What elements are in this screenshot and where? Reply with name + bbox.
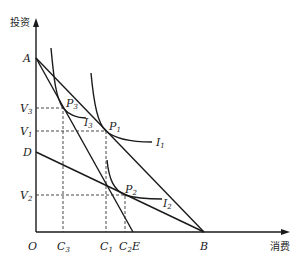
tick-C2: C2 xyxy=(119,240,132,254)
tick-C1: C1 xyxy=(100,240,113,254)
origin-label: O xyxy=(28,240,37,253)
guide-P2 xyxy=(36,195,125,232)
budget-line-AE xyxy=(36,58,133,232)
point-P1-label: P1 xyxy=(108,120,121,134)
tick-C3: C3 xyxy=(57,240,70,254)
tick-V3: V3 xyxy=(20,102,33,116)
x-axis-label: 消费 xyxy=(270,240,290,252)
point-B-label: B xyxy=(199,240,208,253)
tick-V1: V1 xyxy=(20,125,32,139)
y-axis-arrow-icon xyxy=(33,18,39,27)
y-axis-label: 投资 xyxy=(10,16,30,28)
point-E-label: E xyxy=(131,240,140,253)
budget-line-AB xyxy=(36,58,204,232)
point-A-label: A xyxy=(22,52,31,65)
x-axis-arrow-icon xyxy=(281,229,290,235)
guide-P3 xyxy=(36,108,63,232)
curve-I3-label: I3 xyxy=(83,116,93,130)
point-P2-label: P2 xyxy=(124,183,137,197)
tick-V2: V2 xyxy=(20,189,33,203)
indifference-curve-I1 xyxy=(91,73,152,142)
point-D-label: D xyxy=(22,146,32,159)
guide-P1 xyxy=(36,131,106,232)
curve-I2-label: I2 xyxy=(162,197,172,211)
indifference-curve-diagram: 投资 消费 O A D B E P3 P1 P2 V3 V1 V2 C3 C1 … xyxy=(0,0,307,264)
curve-I1-label: I1 xyxy=(155,136,165,150)
